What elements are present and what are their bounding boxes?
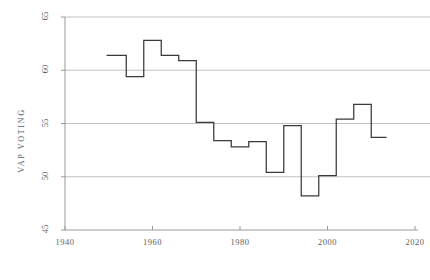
x-tick-label: 1940 <box>45 237 85 247</box>
y-tick-label: 60 <box>40 59 50 79</box>
vap-voting-step-line <box>107 40 387 195</box>
x-tick-label: 2000 <box>308 237 348 247</box>
y-tick-label: 50 <box>40 166 50 186</box>
x-tick-label: 2020 <box>395 237 430 247</box>
y-tick-label: 65 <box>40 6 50 26</box>
y-tick-label: 55 <box>40 113 50 133</box>
x-tick-label: 1980 <box>220 237 260 247</box>
gridlines-group <box>65 17 430 177</box>
y-tick-label: 45 <box>40 219 50 239</box>
data-series-group <box>107 40 387 195</box>
x-tick-label: 1960 <box>133 237 173 247</box>
chart-container: VAP VOTING 4550556065 194019601980200020… <box>0 0 430 280</box>
